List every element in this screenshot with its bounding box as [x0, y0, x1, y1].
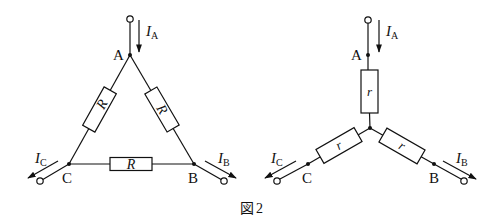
delta-current-label-b: IB [217, 150, 230, 168]
star-node-label-c: C [302, 170, 312, 186]
star-terminal-a [365, 17, 371, 23]
star-terminal-b [461, 178, 467, 184]
delta-node-label-b: B [188, 170, 198, 186]
delta-node-label-a: A [113, 47, 124, 63]
delta-terminal-b [221, 178, 227, 184]
delta-current-label-a: IA [145, 23, 159, 41]
delta-node-label-c: C [62, 170, 72, 186]
star-current-label-a: IA [385, 23, 399, 41]
figure-caption-number: 2 [256, 201, 263, 216]
figure-canvas: A C B R R R IA IC IB [0, 0, 502, 223]
star-circuit [265, 17, 476, 184]
delta-resistor-label-bc: R [126, 157, 136, 172]
star-node-label-a: A [351, 47, 362, 63]
star-node-center [368, 126, 372, 130]
delta-resistor-ac [83, 87, 117, 132]
figure-caption-prefix: 図 [240, 201, 254, 216]
star-terminal-c [274, 178, 280, 184]
delta-lead-b [194, 164, 222, 180]
delta-terminal-c [37, 178, 43, 184]
delta-terminal-a [127, 16, 133, 22]
delta-labels: A C B R R R IA IC IB [34, 23, 230, 186]
delta-current-label-c: IC [34, 150, 47, 168]
star-node-label-b: B [429, 170, 439, 186]
star-current-label-b: IB [455, 150, 468, 168]
star-wire-a-center [370, 113, 371, 128]
star-current-label-c: IC [270, 150, 283, 168]
star-node-a [366, 53, 370, 57]
delta-node-a [128, 53, 132, 57]
